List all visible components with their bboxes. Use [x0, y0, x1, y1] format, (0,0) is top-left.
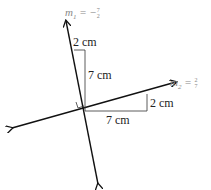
slope-label-2: m2 = 27 [170, 76, 197, 91]
slope-triangle-2 [85, 94, 147, 111]
slope-triangle-1 [74, 50, 85, 111]
rise-label-1: 7 cm [88, 68, 112, 83]
run-label-1: 2 cm [73, 35, 97, 50]
rise-label-2: 2 cm [150, 96, 174, 111]
perpendicular-lines-diagram [0, 0, 211, 190]
run-label-2: 7 cm [106, 113, 130, 128]
slope-label-1: m1 = −72 [65, 6, 100, 21]
